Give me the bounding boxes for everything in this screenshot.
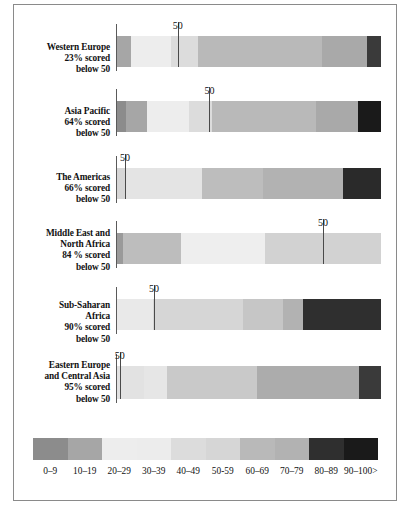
chart-figure: Western Europe23% scoredbelow 5050Asia P…: [0, 0, 404, 505]
row-label: Middle East andNorth Africa84 % scoredbe…: [8, 228, 110, 273]
row-label-line: below 50: [8, 194, 110, 205]
bar-segment: [189, 101, 212, 132]
bar-segment: [171, 36, 198, 67]
legend-swatch: [102, 438, 137, 460]
bar-segment: [144, 366, 166, 399]
row-label-line: below 50: [8, 334, 110, 345]
row-label: Eastern Europeand Central Asia95% scored…: [8, 360, 110, 405]
bar-segment: [212, 101, 316, 132]
row-label-line: Eastern Europe: [8, 360, 110, 371]
frame-border-top: [13, 4, 397, 5]
marker-label-50: 50: [204, 85, 214, 96]
bar-segment: [117, 101, 126, 132]
row-label-line: North Africa: [8, 239, 110, 250]
legend-swatch: [171, 438, 206, 460]
bar-segment: [131, 36, 172, 67]
bar-segment: [202, 168, 263, 199]
row-label-line: below 50: [8, 394, 110, 405]
legend-color-strip: [33, 438, 378, 460]
stacked-bar: [117, 366, 381, 399]
row-label-line: The Americas: [8, 172, 110, 183]
legend-label: 0–9: [33, 464, 68, 480]
legend-label: 80–89: [309, 464, 344, 480]
row-label-line: Asia Pacific: [8, 106, 110, 117]
legend-label: 90–100>: [344, 464, 379, 480]
marker-label-50: 50: [120, 152, 130, 163]
row-label-line: Africa: [8, 311, 110, 322]
row-label: Western Europe23% scoredbelow 50: [8, 42, 110, 76]
legend-label: 10–19: [68, 464, 103, 480]
legend-label: 40–49: [171, 464, 206, 480]
stacked-bar: [117, 299, 381, 330]
legend-label: 30–39: [137, 464, 172, 480]
stacked-bar: [117, 36, 381, 67]
row-label-line: 95% scored: [8, 382, 110, 393]
row-label-line: below 50: [8, 262, 110, 273]
row-label: Sub-SaharanAfrica90% scoredbelow 50: [8, 300, 110, 345]
bar-segment: [126, 168, 201, 199]
legend-swatch: [137, 438, 172, 460]
bar-segment: [198, 36, 322, 67]
legend-label: 60–69: [240, 464, 275, 480]
bar-segment: [359, 366, 381, 399]
stacked-bar: [117, 101, 381, 132]
frame-border-bottom: [13, 500, 397, 501]
row-label-line: 90% scored: [8, 322, 110, 333]
bar-segment: [153, 299, 243, 330]
bar-segment: [117, 36, 131, 67]
bar-segment: [367, 36, 381, 67]
legend-swatch: [33, 438, 68, 460]
row-label-line: below 50: [8, 128, 110, 139]
legend-label-row: 0–910–1920–2930–3940–4950-5960–6970–7980…: [33, 464, 378, 480]
stacked-bar: [117, 233, 381, 264]
legend-swatch: [309, 438, 344, 460]
bar-segment: [303, 299, 381, 330]
bar-segment: [117, 366, 144, 399]
bar-segment: [123, 233, 181, 264]
row-label-line: below 50: [8, 64, 110, 75]
legend-label: 50-59: [206, 464, 241, 480]
row-label-line: 84 % scored: [8, 250, 110, 261]
bar-segment: [147, 101, 189, 132]
marker-label-50: 50: [318, 217, 328, 228]
row-label-line: 23% scored: [8, 53, 110, 64]
legend-label: 20–29: [102, 464, 137, 480]
bar-segment: [126, 101, 147, 132]
legend-swatch: [68, 438, 103, 460]
marker-label-50: 50: [149, 283, 159, 294]
bar-segment: [322, 36, 368, 67]
bar-segment: [316, 101, 358, 132]
row-label-line: and Central Asia: [8, 371, 110, 382]
bar-segment: [343, 168, 381, 199]
marker-label-50: 50: [115, 350, 125, 361]
row-label-line: Western Europe: [8, 42, 110, 53]
marker-label-50: 50: [173, 20, 183, 31]
bar-segment: [263, 168, 343, 199]
bar-segment: [257, 366, 359, 399]
bar-segment: [358, 101, 381, 132]
legend-swatch: [240, 438, 275, 460]
legend-swatch: [275, 438, 310, 460]
row-label-line: Sub-Saharan: [8, 300, 110, 311]
row-label-line: 66% scored: [8, 183, 110, 194]
row-label-line: 64% scored: [8, 117, 110, 128]
row-label-line: Middle East and: [8, 228, 110, 239]
frame-border-right: [396, 4, 397, 501]
row-label: Asia Pacific64% scoredbelow 50: [8, 106, 110, 140]
stacked-bar: [117, 168, 381, 199]
bar-segment: [181, 233, 265, 264]
legend-swatch: [206, 438, 241, 460]
bar-segment: [167, 366, 257, 399]
bar-segment: [283, 299, 303, 330]
bar-segment: [243, 299, 283, 330]
legend-label: 70–79: [275, 464, 310, 480]
legend-swatch: [344, 438, 379, 460]
row-label: The Americas66% scoredbelow 50: [8, 172, 110, 206]
bar-segment: [117, 299, 153, 330]
